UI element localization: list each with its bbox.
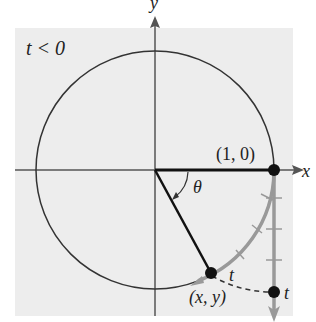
angle-arrow-icon	[172, 192, 179, 200]
wrapped-arc-arrow-icon	[190, 276, 204, 286]
theta-label: θ	[193, 178, 202, 196]
point-t-line	[268, 286, 280, 298]
x-axis-label: x	[302, 162, 310, 180]
condition-label: t < 0	[26, 38, 65, 58]
angle-arc	[175, 172, 188, 197]
line-t-label: t	[284, 284, 289, 302]
point-x-y	[205, 267, 217, 279]
point-1-0-label: (1, 0)	[216, 145, 255, 163]
xy-point-label: (x, y)	[189, 288, 226, 306]
y-axis-label: y	[150, 0, 158, 12]
point-1-0	[268, 164, 280, 176]
terminal-side	[155, 170, 211, 273]
wrapped-arc	[198, 172, 274, 281]
arc-t-label: t	[229, 266, 234, 284]
